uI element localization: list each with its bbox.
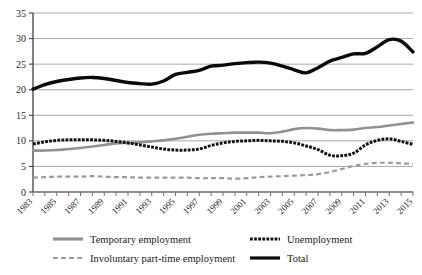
chart-figure: 05101520253035 1983198519871989199119931… (0, 0, 422, 275)
chart-legend: Temporary employmentUnemploymentInvolunt… (53, 234, 352, 264)
x-axis-label: 2009 (323, 196, 343, 216)
x-axis-tick-labels: 1983198519871989199119931995199719992001… (15, 196, 415, 216)
y-axis-label: 20 (16, 84, 26, 95)
x-axis-label: 2001 (228, 196, 248, 216)
x-axis-label: 2015 (395, 196, 415, 216)
series-line (33, 163, 413, 179)
x-axis-label: 1991 (110, 196, 130, 216)
x-axis-label: 2011 (347, 196, 367, 216)
y-axis-label: 35 (16, 8, 26, 19)
x-axis-label: 1983 (15, 196, 35, 216)
x-axis-label: 1997 (181, 196, 201, 216)
series-line (33, 122, 413, 150)
x-axis-label: 1993 (133, 196, 153, 216)
y-axis-label: 5 (21, 161, 26, 172)
y-axis-tick-labels: 05101520253035 (16, 8, 26, 198)
y-axis-label: 10 (16, 135, 26, 146)
legend-label: Total (287, 253, 309, 264)
y-axis-label: 25 (16, 59, 26, 70)
legend-label: Temporary employment (90, 234, 191, 245)
y-axis-label: 30 (16, 33, 26, 44)
y-axis-label: 0 (21, 187, 26, 198)
x-axis-label: 1989 (86, 196, 106, 216)
x-axis-label: 2003 (252, 196, 272, 216)
x-axis-label: 2007 (300, 196, 320, 216)
x-axis-label: 2013 (371, 196, 391, 216)
x-axis-label: 1987 (62, 196, 82, 216)
x-axis-label: 1985 (38, 196, 58, 216)
series-lines (33, 39, 413, 179)
x-axis-label: 1999 (205, 196, 225, 216)
line-chart: 05101520253035 1983198519871989199119931… (0, 0, 422, 275)
x-axis-label: 1995 (157, 196, 177, 216)
legend-label: Involuntary part-time employment (90, 253, 235, 264)
legend-label: Unemployment (287, 234, 352, 245)
x-axis-label: 2005 (276, 196, 296, 216)
y-axis-label: 15 (16, 110, 26, 121)
